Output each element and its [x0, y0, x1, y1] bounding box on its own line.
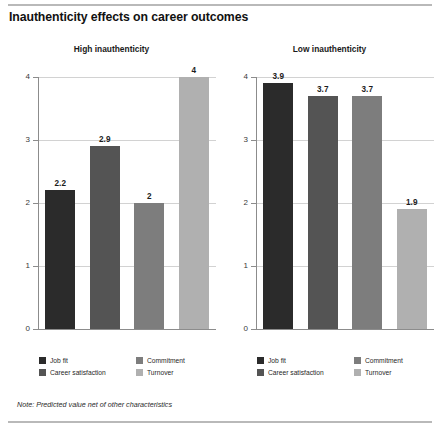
bar-low-turnover: [397, 209, 427, 329]
legend-item-career-satisfaction[interactable]: Career satisfaction: [257, 369, 324, 376]
y-tick-2: [251, 203, 257, 204]
bar-value-label: 2.9: [81, 135, 129, 144]
bar-value-label: 3.7: [343, 85, 391, 94]
bar-value-label: 4: [170, 66, 218, 75]
legend-label: Turnover: [365, 369, 392, 376]
figure-container: Inauthenticity effects on career outcome…: [0, 0, 439, 426]
bottom-divider: [8, 421, 432, 423]
y-tick-4: [33, 77, 39, 78]
legend-label: Career satisfaction: [268, 369, 324, 376]
legend-swatch-icon: [354, 369, 361, 376]
panel-subtitle-high: High inauthenticity: [2, 44, 221, 54]
legend-label: Commitment: [147, 357, 185, 364]
y-tick-0: [251, 329, 257, 330]
legend-swatch-icon: [39, 357, 46, 364]
bar-value-label: 1.9: [388, 198, 436, 207]
y-tick-label-4: 4: [14, 72, 30, 81]
legend-low: Job fitCommitmentCareer satisfactionTurn…: [220, 356, 439, 390]
top-divider: [8, 4, 432, 6]
page-title: Inauthenticity effects on career outcome…: [9, 10, 248, 24]
bar-high-job-fit: [45, 190, 75, 329]
legend-swatch-icon: [136, 357, 143, 364]
legend-swatch-icon: [257, 369, 264, 376]
bar-value-label: 3.9: [254, 72, 302, 81]
legend-item-commitment[interactable]: Commitment: [354, 357, 403, 364]
x-axis-baseline-low: [256, 329, 434, 330]
y-tick-label-2: 2: [14, 198, 30, 207]
y-tick-3: [251, 140, 257, 141]
legend-label: Career satisfaction: [50, 369, 106, 376]
panel-subtitle-low: Low inauthenticity: [220, 44, 439, 54]
chart-panel-high-inauthenticity: High inauthenticity 01234 2.22.924 Job f…: [2, 44, 221, 396]
bar-value-label: 3.7: [299, 85, 347, 94]
legend-label: Job fit: [50, 357, 68, 364]
bar-low-commitment: [352, 96, 382, 329]
legend-swatch-icon: [39, 369, 46, 376]
legend-label: Commitment: [365, 357, 403, 364]
bar-high-career-satisfaction: [90, 146, 120, 329]
legend-item-career-satisfaction[interactable]: Career satisfaction: [39, 369, 106, 376]
y-tick-label-3: 3: [232, 135, 248, 144]
y-tick-2: [33, 203, 39, 204]
y-tick-label-1: 1: [14, 261, 30, 270]
y-tick-label-3: 3: [14, 135, 30, 144]
y-tick-1: [33, 266, 39, 267]
figure-note: Note: Predicted value net of other chara…: [17, 400, 172, 409]
legend-item-job-fit[interactable]: Job fit: [257, 357, 286, 364]
chart-panel-low-inauthenticity: Low inauthenticity 01234 3.93.73.71.9 Jo…: [220, 44, 439, 396]
bar-low-job-fit: [263, 83, 293, 329]
legend-label: Turnover: [147, 369, 174, 376]
legend-swatch-icon: [354, 357, 361, 364]
plot-area-high: 01234 2.22.924: [2, 64, 221, 354]
legend-item-commitment[interactable]: Commitment: [136, 357, 185, 364]
legend-label: Job fit: [268, 357, 286, 364]
y-tick-3: [33, 140, 39, 141]
bar-value-label: 2.2: [36, 179, 84, 188]
bar-low-career-satisfaction: [308, 96, 338, 329]
y-tick-label-0: 0: [232, 324, 248, 333]
legend-item-turnover[interactable]: Turnover: [136, 369, 174, 376]
legend-item-job-fit[interactable]: Job fit: [39, 357, 68, 364]
legend-swatch-icon: [257, 357, 264, 364]
y-tick-0: [33, 329, 39, 330]
x-axis-baseline-high: [38, 329, 216, 330]
y-tick-label-1: 1: [232, 261, 248, 270]
bar-value-label: 2: [125, 192, 173, 201]
legend-high: Job fitCommitmentCareer satisfactionTurn…: [2, 356, 221, 390]
bar-high-turnover: [179, 77, 209, 329]
y-tick-label-2: 2: [232, 198, 248, 207]
y-tick-1: [251, 266, 257, 267]
y-tick-label-4: 4: [232, 72, 248, 81]
legend-swatch-icon: [136, 369, 143, 376]
bar-high-commitment: [134, 203, 164, 329]
plot-area-low: 01234 3.93.73.71.9: [220, 64, 439, 354]
y-tick-label-0: 0: [14, 324, 30, 333]
legend-item-turnover[interactable]: Turnover: [354, 369, 392, 376]
